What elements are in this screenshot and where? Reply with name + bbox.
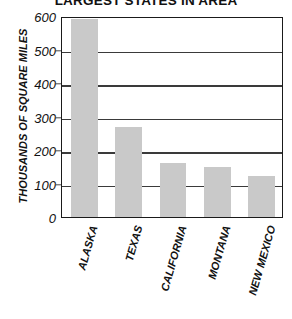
y-tick-label-500: 500: [16, 43, 56, 58]
y-tick-label-100: 100: [16, 177, 56, 192]
x-label-text: TEXAS: [122, 224, 144, 263]
plot-area: [61, 17, 283, 218]
y-tick-label-300: 300: [16, 110, 56, 125]
bar-chart: LARGEST STATES IN AREA THOUSANDS OF SQUA…: [0, 0, 292, 319]
x-label-text: ALASKA: [76, 224, 100, 271]
bars-layer: [62, 18, 282, 217]
bar-alaska: [71, 19, 98, 217]
chart-title: LARGEST STATES IN AREA: [0, 0, 292, 8]
x-label-text: NEW MEXICO: [246, 224, 277, 297]
x-label-text: MONTANA: [206, 224, 233, 281]
y-tick-label-400: 400: [16, 77, 56, 92]
x-label-text: CALIFORNIA: [158, 224, 188, 293]
y-tick-label-200: 200: [16, 144, 56, 159]
y-tick-label-0: 0: [16, 211, 56, 226]
y-tick-label-600: 600: [16, 10, 56, 25]
